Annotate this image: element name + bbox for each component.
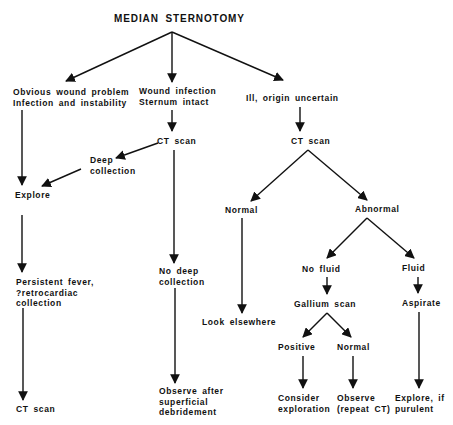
node-normal-gallium: Normal	[337, 342, 370, 353]
diagram-title: MEDIAN STERNOTOMY	[114, 14, 245, 25]
edge-ct-abnormal	[308, 150, 367, 200]
node-persistent-fever: Persistent fever, ?retrocardiac collecti…	[16, 277, 94, 309]
node-fluid: Fluid	[402, 263, 425, 274]
edge-gallium-normal	[327, 313, 351, 337]
edge-abnormal-fluid	[367, 218, 414, 258]
node-ct-scan-middle: CT scan	[157, 136, 196, 147]
node-abnormal-ct: Abnormal	[355, 204, 399, 215]
edge-abnormal-nofluid	[327, 218, 367, 258]
node-deep-collection: Deep collection	[90, 155, 136, 176]
node-gallium-scan: Gallium scan	[294, 299, 356, 310]
node-obvious-wound-problem: Obvious wound problem Infection and inst…	[13, 87, 129, 108]
node-ct-scan-left: CT scan	[16, 404, 55, 415]
node-look-elsewhere: Look elsewhere	[202, 317, 276, 328]
node-aspirate: Aspirate	[402, 298, 441, 309]
node-ct-scan-right: CT scan	[291, 136, 330, 147]
node-no-fluid: No fluid	[302, 264, 340, 275]
node-observe-after-debridement: Observe after superficial debridement	[159, 386, 224, 418]
edge-root-ill	[172, 32, 283, 80]
node-ill-origin-uncertain: Ill, origin uncertain	[246, 93, 339, 104]
node-observe-repeat-ct: Observe (repeat CT)	[337, 393, 390, 414]
node-explore: Explore	[15, 190, 50, 201]
edge-root-obvious	[66, 32, 172, 81]
node-explore-if-purulent: Explore, if purulent	[395, 393, 445, 414]
flowchart-canvas: MEDIAN STERNOTOMY Obvious wound problem …	[0, 0, 453, 425]
edge-gallium-positive	[303, 313, 327, 337]
edge-deep-explore	[42, 169, 81, 186]
node-consider-exploration: Consider exploration	[278, 393, 330, 414]
node-normal-ct: Normal	[225, 205, 258, 216]
edge-ct-normal	[251, 150, 308, 201]
node-wound-infection-sternum-intact: Wound infection Sternum intact	[139, 86, 216, 107]
node-no-deep-collection: No deep collection	[159, 266, 205, 287]
node-positive: Positive	[278, 342, 315, 353]
